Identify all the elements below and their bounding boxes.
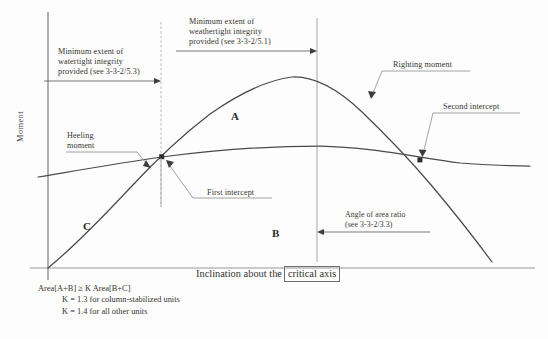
angle-of-area-ratio-arrowhead [317,229,324,235]
x-axis-caption: Inclination about the critical axis [196,266,340,282]
second-intercept-leader-line [424,113,442,150]
figure-container: Minimum extent of watertight integrity p… [0,0,548,339]
formula-note-column-stabilized: K = 1.3 for column-stabilized units [38,294,180,305]
annotation-second-intercept: Second intercept [443,102,499,112]
first-intercept-arrowhead [166,160,174,168]
watertight-leader-arrowhead [154,78,161,84]
first-intercept-marker [159,154,164,159]
annotation-watertight-integrity: Minimum extent of watertight integrity p… [58,47,166,78]
annotation-weathertight-integrity: Minimum extent of weathertight integrity… [189,17,305,48]
annotation-heeling-moment: Heeling moment [67,131,127,151]
x-axis-caption-prefix: Inclination about the [196,268,282,279]
second-intercept-arrowhead [419,150,427,158]
area-ratio-formula-block: Area[A+B] ≥ K Area[B+C] K = 1.3 for colu… [38,283,180,317]
weathertight-leader-arrowhead [310,48,317,54]
region-label-b: B [272,227,279,239]
second-intercept-marker [417,157,422,162]
region-label-a: A [231,110,239,122]
y-axis-label: Moment [16,97,25,157]
first-intercept-leader-line [170,166,205,198]
righting-moment-arrowhead [368,91,376,99]
annotation-angle-of-area-ratio: Angle of area ratio (see 3-3-2/3.3) [345,210,455,229]
righting-moment-curve [48,77,492,268]
formula-main: Area[A+B] ≥ K Area[B+C] [38,283,180,294]
region-label-c: C [83,220,91,232]
critical-axis-box: critical axis [284,266,340,282]
annotation-righting-moment: Righting moment [393,60,452,70]
formula-note-all-other: K = 1.4 for all other units [38,306,180,317]
righting-moment-leader-line [373,71,392,93]
annotation-first-intercept: First intercept [207,188,254,198]
